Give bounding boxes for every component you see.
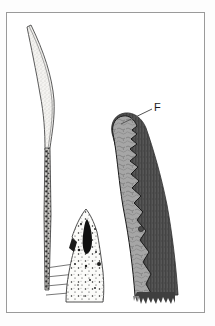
right-specimen-ragged-base [135, 292, 175, 304]
inner-nodule [138, 226, 143, 231]
figure-illustration [0, 0, 215, 326]
left-specimen-shaft [44, 148, 51, 290]
left-specimen [27, 25, 54, 150]
right-specimen [112, 113, 178, 304]
figure-root: F [0, 0, 215, 326]
left-specimen-base [66, 209, 104, 302]
label-F: F [154, 102, 161, 113]
base-outline [66, 209, 104, 302]
